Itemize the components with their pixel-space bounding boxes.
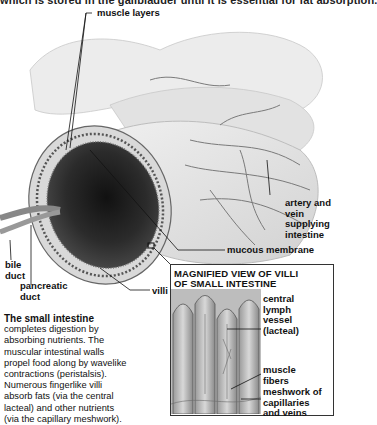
description-paragraph: The small intestine completes digestion …	[4, 313, 164, 425]
label-artery-vein: artery andvein supplyingintestine	[285, 198, 331, 240]
label-bile-duct: bileduct	[5, 260, 25, 281]
label-meshwork: meshwork ofcapillaries and veins	[263, 387, 322, 419]
label-villi: villi	[152, 286, 168, 297]
label-lacteal: centrallymph vessel(lacteal)	[263, 294, 299, 336]
inset-title: MAGNIFIED VIEW OF VILLIOF SMALL INTESTIN…	[174, 269, 298, 289]
label-muscle-layers: muscle layers	[97, 8, 160, 19]
label-mucous-membrane: mucous membrane	[227, 245, 314, 256]
label-muscle-fibers: musclefibers	[263, 365, 296, 386]
magnified-villi-inset: MAGNIFIED VIEW OF VILLIOF SMALL INTESTIN…	[170, 264, 334, 416]
label-pancreatic-duct: pancreaticduct	[20, 281, 68, 302]
description-heading: The small intestine	[4, 313, 164, 324]
villi-drawing	[171, 289, 261, 414]
